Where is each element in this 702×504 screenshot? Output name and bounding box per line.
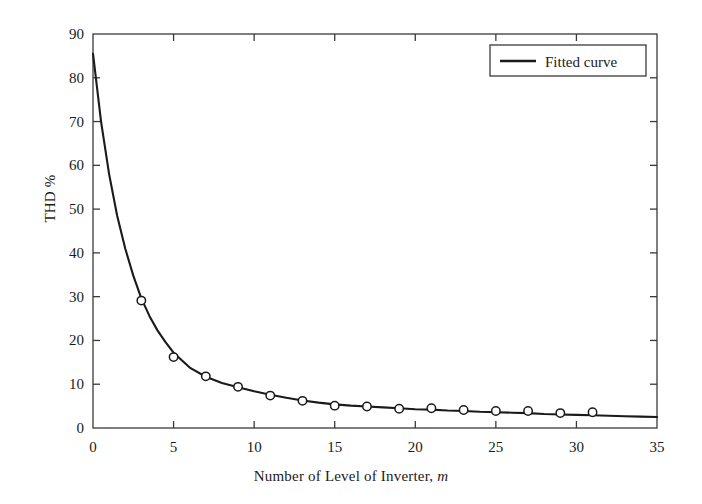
- y-tick-label: 70: [69, 114, 84, 130]
- y-tick-label: 0: [77, 420, 85, 436]
- data-point-marker: [137, 296, 145, 304]
- x-axis-title: Number of Level of Inverter, m: [0, 468, 702, 485]
- y-axis-title: THD %: [42, 139, 59, 259]
- y-tick-label: 40: [69, 245, 84, 261]
- y-axis-tick-labels: 0102030405060708090: [69, 26, 84, 436]
- data-point-marker: [492, 407, 500, 415]
- data-point-marker: [234, 383, 242, 391]
- y-tick-label: 80: [69, 70, 84, 86]
- data-point-marker: [363, 402, 371, 410]
- data-point-marker: [298, 397, 306, 405]
- data-point-marker: [169, 353, 177, 361]
- x-tick-label: 15: [327, 439, 342, 455]
- x-tick-label: 20: [408, 439, 423, 455]
- x-axis-tick-labels: 05101520253035: [89, 439, 664, 455]
- data-point-marker: [331, 401, 339, 409]
- x-tick-label: 5: [170, 439, 178, 455]
- x-axis-title-text: Number of Level of Inverter,: [254, 468, 434, 484]
- data-point-marker: [266, 391, 274, 399]
- data-point-marker: [588, 408, 596, 416]
- x-tick-label: 35: [650, 439, 665, 455]
- data-point-marker: [524, 407, 532, 415]
- y-tick-label: 60: [69, 157, 84, 173]
- data-point-marker: [427, 404, 435, 412]
- y-tick-label: 10: [69, 376, 84, 392]
- data-point-marker: [202, 372, 210, 380]
- chart-figure: 05101520253035 0102030405060708090 Fitte…: [0, 0, 702, 504]
- x-tick-label: 30: [569, 439, 584, 455]
- y-tick-label: 50: [69, 201, 84, 217]
- plot-canvas: 05101520253035 0102030405060708090 Fitte…: [0, 0, 702, 504]
- x-tick-label: 10: [247, 439, 262, 455]
- data-point-marker: [556, 409, 564, 417]
- x-tick-label: 0: [89, 439, 97, 455]
- data-point-marker: [395, 405, 403, 413]
- x-axis-title-symbol: m: [437, 468, 448, 484]
- y-tick-label: 90: [69, 26, 84, 42]
- plot-frame: [93, 34, 657, 428]
- y-tick-label: 30: [69, 289, 84, 305]
- legend: Fitted curve: [490, 45, 646, 76]
- x-tick-label: 25: [488, 439, 503, 455]
- legend-label-fitted-curve: Fitted curve: [545, 54, 617, 70]
- y-tick-label: 20: [69, 332, 84, 348]
- y-axis-title-text: THD %: [42, 174, 58, 222]
- data-point-marker: [459, 406, 467, 414]
